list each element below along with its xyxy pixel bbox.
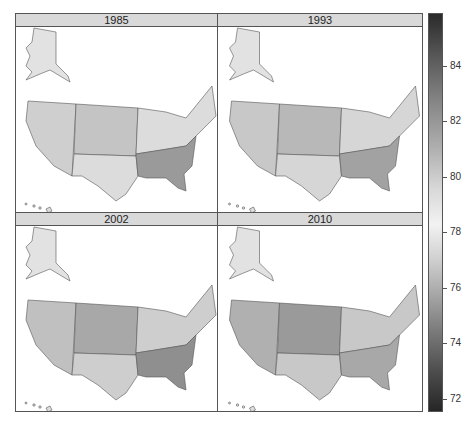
colorbar-tick <box>443 399 447 400</box>
conus-shape <box>230 285 420 400</box>
colorbar-tick-label: 74 <box>450 338 461 348</box>
conus-shape <box>26 285 216 400</box>
colorbar-tick-label: 80 <box>450 172 461 182</box>
panel-2002: 2002 <box>15 212 218 412</box>
us-county-map <box>218 225 423 412</box>
colorbar-tick <box>443 66 447 67</box>
panel-1993: 1993 <box>217 13 423 213</box>
colorbar-tick <box>443 177 447 178</box>
hawaii-shape <box>25 402 52 412</box>
alaska-shape <box>230 28 274 82</box>
colorbar-tick-label: 72 <box>450 394 461 404</box>
alaska-shape <box>230 227 274 281</box>
panel-2010: 2010 <box>217 212 423 412</box>
alaska-shape <box>26 28 70 82</box>
colorbar-tick <box>443 232 447 233</box>
colorbar-tick <box>443 121 447 122</box>
colorbar <box>428 13 443 412</box>
panel-1985: 1985 <box>15 13 218 213</box>
us-county-map <box>16 26 218 213</box>
alaska-shape <box>26 227 70 281</box>
colorbar-tick-label: 84 <box>450 61 461 71</box>
colorbar-tick-label: 82 <box>450 116 461 126</box>
hawaii-shape <box>229 402 256 412</box>
us-county-map <box>16 225 218 412</box>
us-county-map <box>218 26 423 213</box>
conus-shape <box>26 86 216 201</box>
colorbar-tick <box>443 343 447 344</box>
colorbar-tick <box>443 288 447 289</box>
colorbar-tick-label: 78 <box>450 227 461 237</box>
colorbar-tick-label: 76 <box>450 283 461 293</box>
conus-shape <box>230 86 420 201</box>
